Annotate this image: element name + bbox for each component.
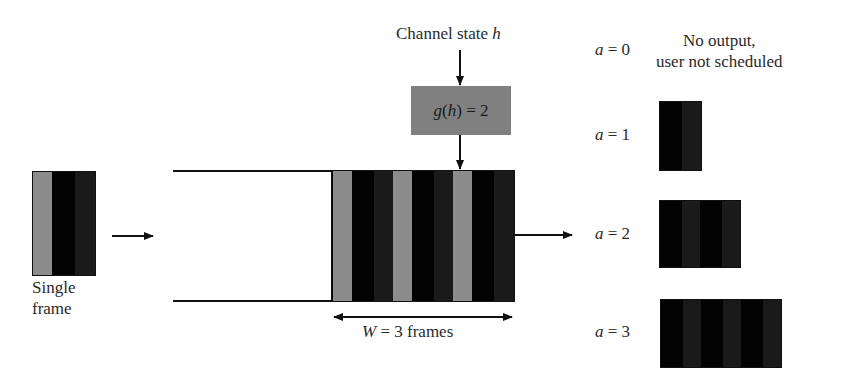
window-text: = 3 frames [376, 322, 453, 341]
single-frame [32, 171, 96, 276]
no-output-description: No output, user not scheduled [656, 30, 783, 72]
output-var: a [595, 224, 604, 243]
output-label-a0: a = 0 [595, 40, 630, 60]
stripe-dark [763, 300, 782, 367]
output-label-a2: a = 2 [595, 224, 630, 244]
output-var: a [595, 322, 604, 341]
output-frame-a1 [659, 101, 702, 171]
channel-state-text: Channel state [396, 24, 492, 43]
stripe-dark [682, 102, 702, 170]
gain-box-label: g(h) = 2 [434, 101, 489, 121]
stripe-dark [722, 201, 741, 267]
output-frame-a3 [660, 299, 782, 368]
stripe-dark [723, 300, 741, 367]
single-frame-label-line1: Single [32, 277, 75, 298]
stripe-black [660, 201, 682, 267]
output-label-a1: a = 1 [595, 125, 630, 145]
output-label-a3: a = 3 [595, 322, 630, 342]
stripe-gray [333, 171, 352, 301]
stripe-dark [75, 172, 96, 275]
stripe-black [352, 171, 374, 301]
stripe-gray [393, 171, 412, 301]
stripe-dark [374, 171, 393, 301]
gain-arg: h [448, 101, 457, 120]
stripe-black [412, 171, 434, 301]
stripe-black [701, 300, 723, 367]
window-var: W [362, 322, 376, 341]
stripe-dark [682, 201, 700, 267]
stripe-black [700, 201, 722, 267]
no-output-line2: user not scheduled [656, 51, 783, 72]
stripe-black [52, 172, 75, 275]
output-var: a [595, 40, 604, 59]
stripe-gray [33, 172, 52, 275]
output-value: = 2 [604, 224, 631, 243]
window-label: W = 3 frames [362, 322, 453, 342]
buffer-frames [331, 170, 515, 302]
channel-state-label: Channel state h [396, 24, 501, 44]
output-value: = 0 [604, 40, 631, 59]
gain-box: g(h) = 2 [411, 86, 511, 135]
stripe-black [741, 300, 763, 367]
single-frame-label: Single frame [32, 277, 75, 319]
output-var: a [595, 125, 604, 144]
gain-value: = 2 [462, 101, 489, 120]
single-frame-label-line2: frame [32, 298, 75, 319]
stripe-black [472, 171, 494, 301]
stripe-black [661, 300, 683, 367]
gain-func: g [434, 101, 443, 120]
stripe-dark [683, 300, 701, 367]
stripe-dark [494, 171, 515, 301]
output-value: = 1 [604, 125, 631, 144]
channel-state-var: h [492, 24, 501, 43]
stripe-dark [434, 171, 453, 301]
no-output-line1: No output, [656, 30, 783, 51]
stripe-black [660, 102, 682, 170]
output-value: = 3 [604, 322, 631, 341]
output-frame-a2 [659, 200, 741, 268]
stripe-gray [453, 171, 472, 301]
